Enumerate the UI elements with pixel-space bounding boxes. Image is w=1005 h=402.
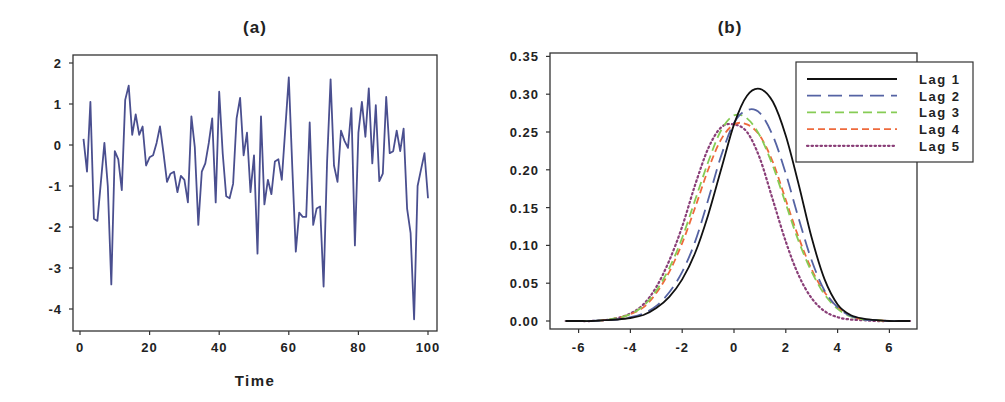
y-tick-label: 0.20 (510, 163, 539, 178)
y-tick-label: 0.25 (510, 125, 539, 140)
legend-label: Lag 1 (919, 72, 960, 87)
y-tick-label: 2 (54, 56, 62, 71)
y-tick-label: 0.35 (510, 49, 539, 64)
y-tick-label: 0.00 (510, 314, 539, 329)
legend-label: Lag 5 (919, 139, 960, 154)
x-tick-label: 4 (833, 340, 841, 355)
y-tick-label: 1 (54, 97, 62, 112)
x-tick-label: -2 (675, 340, 689, 355)
legend-label: Lag 3 (919, 105, 960, 120)
panel-b-title: (b) (718, 18, 743, 37)
y-tick-label: -1 (48, 179, 62, 194)
legend-label: Lag 4 (919, 122, 960, 137)
x-tick-label: 60 (281, 340, 297, 355)
x-tick-label: 0 (730, 340, 738, 355)
x-tick-label: 80 (350, 340, 366, 355)
y-tick-label: 0.15 (510, 201, 539, 216)
panel-a: (a) 210-1-2-3-4 020406080100 Time (48, 18, 440, 389)
time-series-line (84, 77, 429, 319)
panel-b-y-axis: 0.350.300.250.200.150.100.050.00 (510, 49, 550, 329)
panel-b-x-axis: -6-4-20246 (572, 329, 894, 355)
y-tick-label: 0.05 (510, 276, 539, 291)
x-tick-label: -4 (624, 340, 638, 355)
x-tick-label: -6 (572, 340, 586, 355)
panel-b: (b) 0.350.300.250.200.150.100.050.00 -6-… (510, 18, 973, 355)
panel-a-title: (a) (243, 18, 267, 37)
y-tick-label: -2 (48, 220, 62, 235)
y-tick-label: -4 (48, 302, 62, 317)
panel-a-x-label: Time (235, 372, 276, 389)
y-tick-label: 0.30 (510, 87, 539, 102)
x-tick-label: 40 (211, 340, 227, 355)
figure: (a) 210-1-2-3-4 020406080100 Time (b) 0.… (0, 0, 1005, 402)
x-tick-label: 6 (885, 340, 893, 355)
x-tick-label: 0 (76, 340, 84, 355)
x-tick-label: 100 (416, 340, 441, 355)
y-tick-label: -3 (48, 261, 62, 276)
legend: Lag 1Lag 2Lag 3Lag 4Lag 5 (796, 62, 973, 162)
panel-a-x-axis: 020406080100 (76, 331, 440, 355)
x-tick-label: 2 (782, 340, 790, 355)
y-tick-label: 0.10 (510, 238, 539, 253)
legend-label: Lag 2 (919, 89, 960, 104)
x-tick-label: 20 (141, 340, 157, 355)
panel-a-y-axis: 210-1-2-3-4 (48, 56, 73, 317)
y-tick-label: 0 (54, 138, 62, 153)
